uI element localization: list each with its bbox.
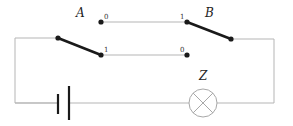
switch-b-pivot bbox=[228, 36, 233, 41]
switch-b bbox=[184, 19, 233, 57]
switch-a-terminal-0 bbox=[98, 19, 103, 24]
terminal-label-bottom-right: 0 bbox=[180, 46, 184, 54]
label-a: A bbox=[75, 6, 85, 20]
circuit-diagram: A B Z 0 1 1 0 bbox=[0, 0, 293, 126]
terminal-label-top-right: 1 bbox=[180, 13, 184, 21]
switch-a-terminal-1 bbox=[98, 52, 103, 57]
switch-b-terminal-1 bbox=[184, 19, 189, 24]
switch-a-lever bbox=[58, 38, 101, 55]
switch-a bbox=[55, 19, 103, 57]
label-b: B bbox=[204, 6, 214, 20]
label-z: Z bbox=[198, 69, 208, 83]
left-wire bbox=[15, 38, 69, 103]
right-wire bbox=[217, 39, 274, 103]
switch-b-terminal-0 bbox=[184, 52, 189, 57]
terminal-label-top-left: 0 bbox=[104, 13, 108, 21]
switch-b-lever bbox=[187, 22, 231, 39]
lamp-z bbox=[189, 89, 217, 117]
battery bbox=[15, 86, 69, 120]
terminal-label-bottom-left: 1 bbox=[104, 46, 108, 54]
switch-a-pivot bbox=[55, 35, 60, 40]
wires bbox=[15, 22, 274, 103]
battery-gap bbox=[59, 95, 68, 111]
